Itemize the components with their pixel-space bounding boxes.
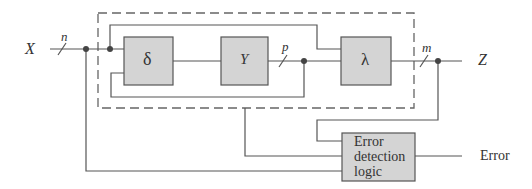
error-block-line2: detection (354, 149, 405, 164)
bus-width-m: m (422, 40, 431, 56)
error-block-line1: Error (354, 134, 405, 149)
lambda-label: λ (361, 50, 369, 70)
gamma-label: Y (240, 51, 248, 68)
error-output-label: Error (480, 148, 510, 164)
bus-width-p: p (282, 39, 289, 55)
output-label: Z (478, 51, 487, 69)
error-block-line3: logic (354, 164, 405, 179)
error-block-text: Error detection logic (354, 134, 405, 179)
bus-width-n: n (61, 29, 68, 45)
diagram-canvas (0, 0, 532, 189)
delta-label: δ (143, 49, 151, 70)
input-label: X (25, 40, 35, 58)
